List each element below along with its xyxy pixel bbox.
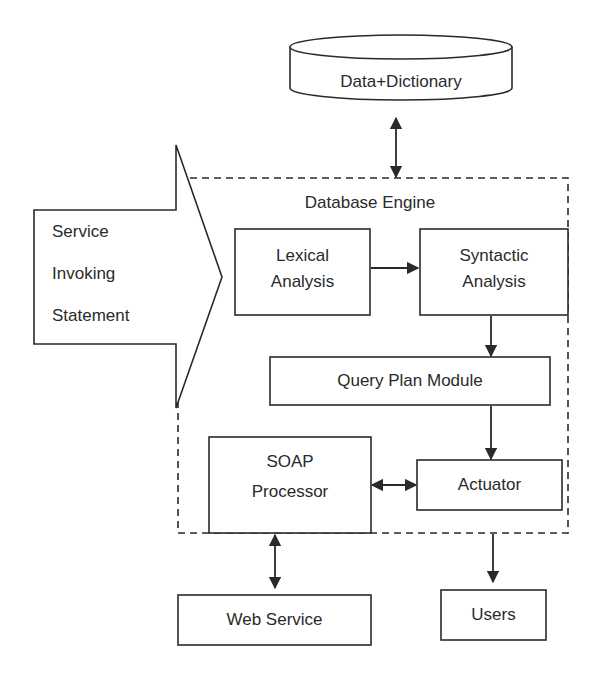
soap-label-line2: Processor	[209, 480, 371, 504]
actuator-label: Actuator	[417, 473, 562, 497]
syntactic-label-line1: Syntactic	[420, 244, 568, 268]
service-label-line1: Service	[52, 220, 172, 244]
users-label: Users	[441, 603, 546, 627]
web-service-label: Web Service	[178, 608, 371, 632]
service-label-line2: Invoking	[52, 262, 172, 286]
syntactic-label-line2: Analysis	[420, 270, 568, 294]
database-engine-label: Database Engine	[270, 191, 470, 215]
service-label-line3: Statement	[52, 304, 172, 328]
soap-label-line1: SOAP	[209, 450, 371, 474]
data-dictionary-label: Data+Dictionary	[290, 70, 512, 94]
query-plan-label: Query Plan Module	[270, 369, 550, 393]
lexical-label-line1: Lexical	[235, 244, 370, 268]
diagram-canvas	[0, 0, 601, 674]
lexical-label-line2: Analysis	[235, 270, 370, 294]
